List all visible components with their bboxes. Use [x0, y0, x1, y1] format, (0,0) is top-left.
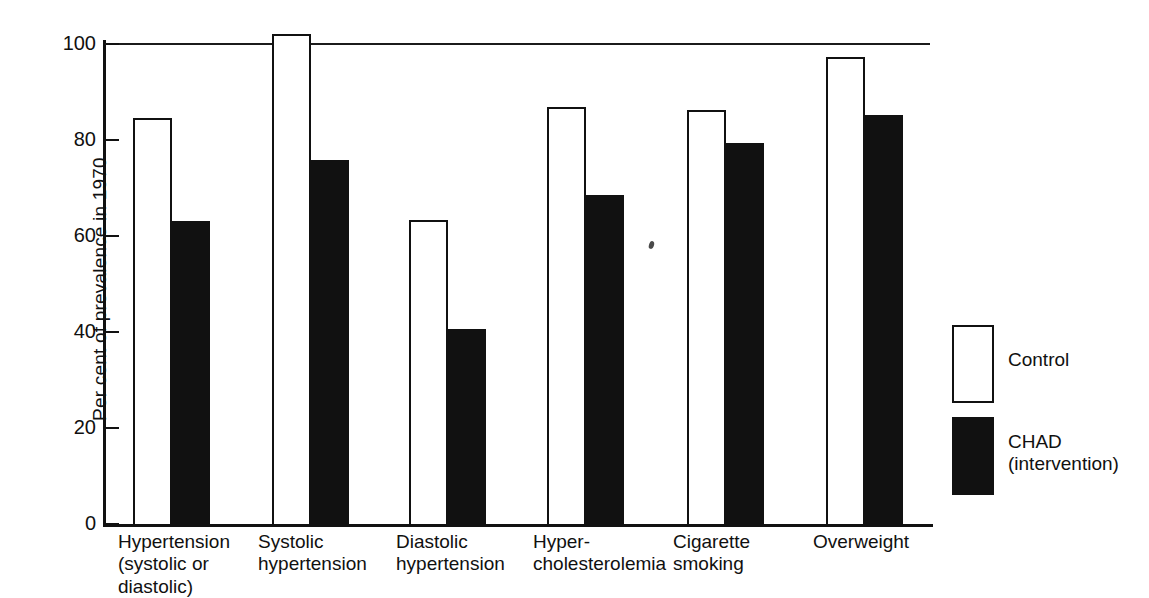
- bar-control-4: [547, 107, 586, 524]
- bar-control-6: [826, 57, 865, 524]
- bar-control-1: [133, 118, 172, 524]
- bar-control-2: [272, 34, 311, 524]
- bar-chad-6: [864, 115, 903, 524]
- bar-chad-5: [725, 143, 764, 524]
- legend-label-control: Control: [1008, 349, 1069, 371]
- legend-item-chad: CHAD (intervention): [952, 417, 1142, 509]
- bar-chad-3: [447, 329, 486, 524]
- chart-legend: Control CHAD (intervention): [952, 325, 1142, 509]
- legend-swatch-control-icon: [952, 325, 994, 403]
- x-axis-line: [103, 524, 933, 527]
- bar-control-3: [409, 220, 448, 524]
- bar-chad-2: [310, 160, 349, 524]
- bar-chad-1: [171, 221, 210, 524]
- bar-control-5: [687, 110, 726, 524]
- category-label-3: Diastolic hypertension: [396, 531, 505, 576]
- bar-chad-4: [585, 195, 624, 524]
- legend-swatch-chad-icon: [952, 417, 994, 495]
- legend-label-chad: CHAD (intervention): [1008, 431, 1119, 476]
- category-label-2: Systolic hypertension: [258, 531, 367, 576]
- category-label-5: Cigarette smoking: [673, 531, 750, 576]
- category-label-1: Hypertension (systolic or diastolic): [118, 531, 230, 598]
- category-label-4: Hyper- cholesterolemia: [533, 531, 666, 576]
- legend-item-control: Control: [952, 325, 1142, 417]
- category-label-6: Overweight: [813, 531, 909, 553]
